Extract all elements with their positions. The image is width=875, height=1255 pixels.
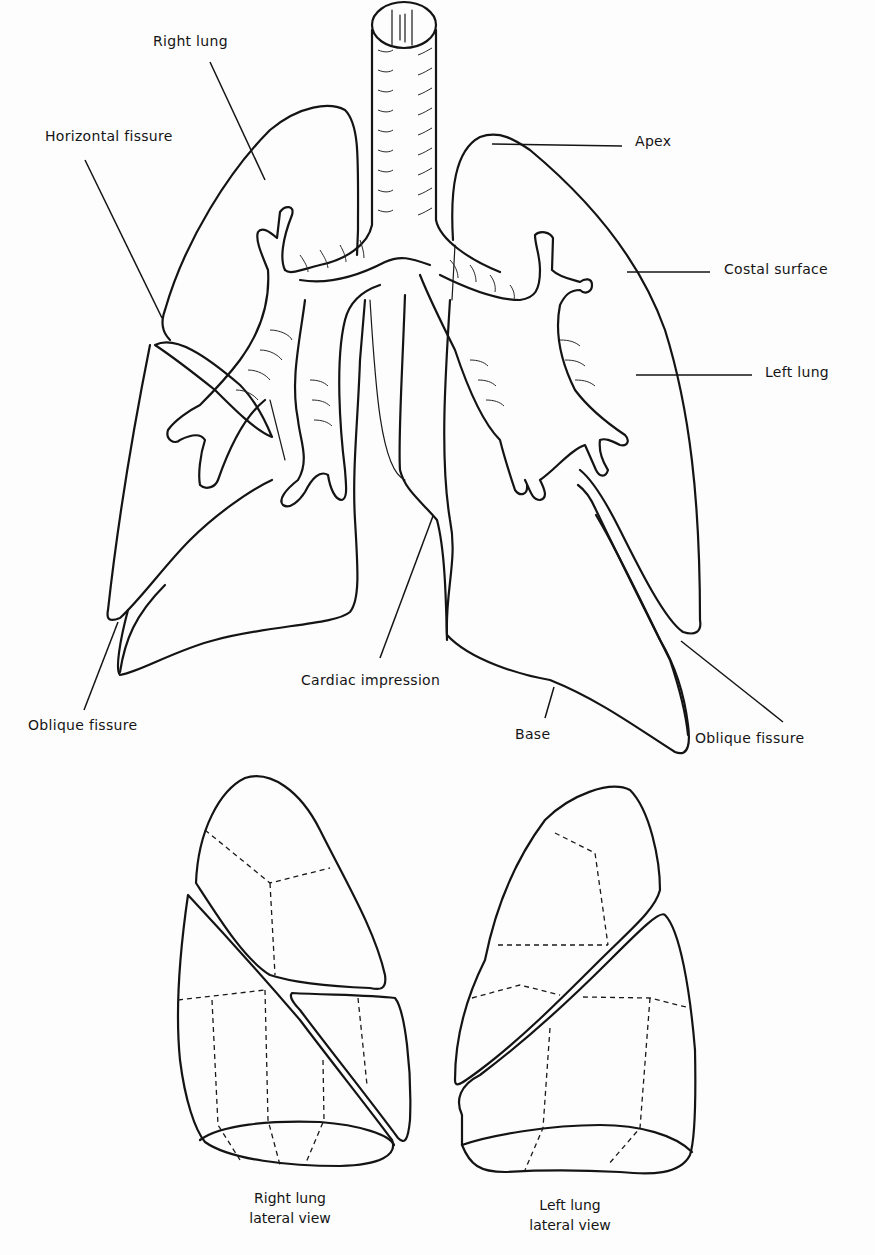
caption-left-line2: lateral view [500,1215,640,1235]
diagram-artwork [0,0,875,1255]
right-lung-lateral-view [178,776,410,1166]
leader-cardiac-impression [380,516,433,658]
label-base: Base [515,726,550,742]
lung-anatomy-diagram: Right lung Horizontal fissure Apex Costa… [0,0,875,1255]
label-oblique-fissure-left: Oblique fissure [695,730,804,746]
label-right-lung: Right lung [153,33,228,49]
label-cardiac-impression: Cardiac impression [301,672,440,688]
left-lung-anterior [370,135,700,754]
caption-left-line1: Left lung [500,1195,640,1215]
leader-oblique-fissure-left [681,641,783,722]
leader-right-lung [210,62,265,180]
label-apex: Apex [635,133,671,149]
trachea-and-bronchi [167,2,627,506]
caption-right-line1: Right lung [220,1188,360,1208]
label-oblique-fissure-right: Oblique fissure [28,717,137,733]
caption-right-line2: lateral view [220,1208,360,1228]
label-costal-surface: Costal surface [724,261,828,277]
leader-base [545,687,554,718]
caption-right-lung-lateral: Right lung lateral view [220,1188,360,1228]
right-lung-anterior [108,106,366,675]
left-lung-lateral-view [455,787,695,1174]
leader-lines [84,62,783,722]
label-left-lung: Left lung [765,364,829,380]
leader-oblique-fissure-right [84,622,118,710]
leader-horizontal-fissure [85,160,162,318]
caption-left-lung-lateral: Left lung lateral view [500,1195,640,1235]
leader-apex [492,144,622,146]
label-horizontal-fissure: Horizontal fissure [45,128,173,144]
